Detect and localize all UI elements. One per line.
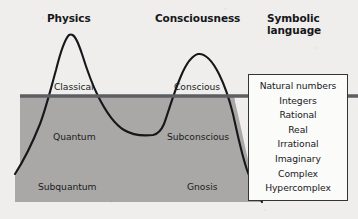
zone-label-conscious: Conscious — [174, 81, 220, 92]
number-item: Imaginary — [275, 152, 321, 167]
number-item: Real — [288, 123, 308, 138]
zone-label-subquantum: Subquantum — [38, 181, 96, 192]
zone-label-subconscious: Subconscious — [167, 131, 229, 142]
number-item: Irrational — [277, 137, 318, 152]
number-item: Natural numbers — [260, 79, 337, 94]
diagram-canvas: Physics Consciousness Symbolic language … — [0, 0, 358, 219]
header-physics: Physics — [47, 12, 91, 24]
number-item: Complex — [278, 167, 318, 182]
header-symbolic-language: Symbolic language — [267, 12, 321, 36]
header-consciousness: Consciousness — [155, 12, 240, 24]
zone-label-quantum: Quantum — [53, 131, 96, 142]
zone-label-gnosis: Gnosis — [187, 181, 217, 192]
number-item: Hypercomplex — [265, 181, 331, 196]
number-item: Rational — [279, 108, 316, 123]
number-item: Integers — [279, 94, 316, 109]
zone-label-classical: Classical — [54, 81, 94, 92]
number-systems-box: Natural numbers Integers Rational Real I… — [248, 74, 348, 201]
